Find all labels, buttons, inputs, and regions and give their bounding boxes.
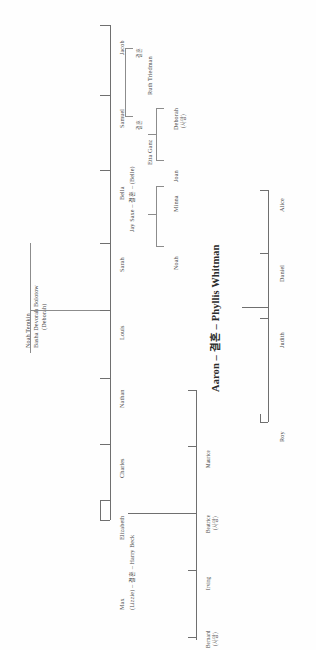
gen4-end-bracket	[260, 414, 261, 422]
gen3-label-maurice: Maurice	[205, 450, 212, 468]
gen4-label-alice: Alice	[278, 198, 285, 212]
gen4-tick-judith	[260, 318, 268, 319]
gen4-tick-daniel	[260, 253, 268, 254]
gen2-tick-max	[100, 520, 110, 521]
samuel-marriage-tick-bottom	[125, 116, 133, 117]
gen3-tick-irving	[188, 570, 196, 571]
samuel-child-tick-deborah	[156, 108, 164, 109]
samuel-children-spine	[156, 108, 157, 160]
gen3-tick-beatrice	[188, 513, 196, 514]
samuel-child-deborah-line1: Deborah	[172, 108, 179, 130]
gen2-label-louis: Louis	[118, 325, 125, 340]
bella-child-noah-label: Noah	[172, 256, 179, 270]
gen2-label-bella: Bella	[118, 186, 125, 200]
gen2-label-elizabeth: Elizabeth	[118, 516, 125, 540]
gen2-label-nathan: Nathan	[118, 390, 125, 408]
bella-child-joan-label: Joan	[172, 170, 179, 182]
samuel-child-tick-joan	[156, 160, 164, 161]
bella-children-spine	[156, 186, 157, 246]
gen4-label-roy: Roy	[278, 431, 285, 442]
samuel-child-deborah-line2: (사망)	[180, 114, 187, 128]
gen4-tick-roy	[260, 422, 268, 423]
samuel-spouse-ruth-label: Ruth Triedman	[146, 56, 153, 95]
gen3-tick-bernard	[188, 637, 196, 638]
samuel-children-stem	[148, 134, 156, 135]
bella-child-tick-minna	[156, 186, 164, 187]
gen1-mother-label-line2: (Deborah)	[40, 304, 47, 330]
gen4-children-spine	[268, 190, 269, 422]
family-tree-canvas: Noah Temkin Basha Devorah Bolotow (Debor…	[0, 0, 316, 650]
gen2-label-charles: Charles	[118, 458, 125, 478]
gen1-marriage-bar	[30, 243, 31, 353]
samuel-marriage-mark-2: 결혼	[136, 48, 143, 58]
gen3-tick-aaron	[188, 390, 196, 391]
gen4-label-judith: Judith	[278, 332, 285, 348]
bella-child-tick-noah	[156, 246, 164, 247]
gen2-label-sarah: Sarah	[118, 257, 125, 272]
gen2-tick-bella	[100, 170, 110, 171]
gen3-tick-maurice	[188, 446, 196, 447]
gen2-tick-louis	[100, 310, 110, 311]
gen2-tick-charles	[100, 444, 110, 445]
gen2-end-bracket	[100, 500, 101, 521]
samuel-marriage-bar	[125, 48, 126, 116]
gen4-label-daniel: Daniel	[278, 265, 285, 282]
gen2-sibling-spine	[110, 25, 111, 520]
gen2-tick-jacob	[100, 25, 110, 26]
gen4-descent-line	[242, 307, 268, 308]
gen3-status-beatrice: (사망)	[212, 516, 219, 530]
gen2-tick-elizabeth	[100, 500, 110, 501]
gen3-beck-descent-line	[128, 513, 196, 514]
aaron-marriage-headline: Aaron – 결혼 – Phyllis Whitman	[210, 244, 222, 392]
gen2-tick-nathan	[100, 378, 110, 379]
gen3-status-bernard: (사망)	[212, 632, 219, 646]
gen4-tick-alice	[260, 190, 268, 191]
bella-spouse-label: Jay Saxe – 결혼 – (Belle)	[128, 166, 135, 232]
gen2-tick-samuel	[100, 95, 110, 96]
samuel-marriage-mark-1: 결혼	[136, 120, 143, 130]
gen2-label-max: Max	[118, 598, 125, 610]
gen3-label-irving: Irving	[205, 577, 212, 590]
bella-children-stem	[148, 214, 156, 215]
gen1-mother-label-line1: Basha Devorah Bolotow	[32, 285, 39, 348]
gen1-descent-line	[30, 310, 110, 311]
bella-child-minna-label: Minna	[172, 195, 179, 212]
samuel-spouse-etta-label: Etta Ganz	[146, 140, 153, 165]
elizabeth-spouse-label: (Lizzie) – 결혼 – Harry Beck	[128, 535, 135, 610]
gen2-tick-sarah	[100, 243, 110, 244]
samuel-marriage-tick-top	[125, 48, 133, 49]
gen3-beck-spine	[196, 390, 197, 640]
